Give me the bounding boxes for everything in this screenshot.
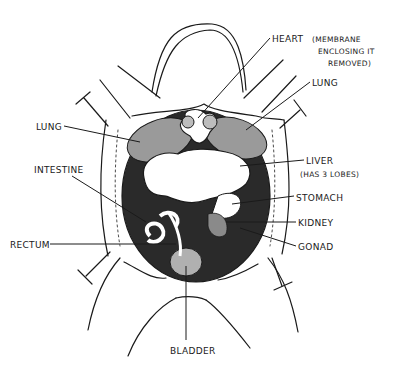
right-leg-outline bbox=[128, 298, 176, 356]
leader-lung-right bbox=[246, 82, 310, 130]
label-heart-note-1: (MEMBRANE bbox=[312, 35, 361, 45]
leader-lung-left bbox=[64, 126, 140, 142]
label-lung-right: LUNG bbox=[312, 78, 338, 88]
label-heart: HEART bbox=[272, 34, 303, 44]
label-lung-left: LUNG bbox=[36, 122, 62, 132]
jaw-outline bbox=[152, 24, 246, 92]
label-gonad: GONAD bbox=[298, 242, 333, 252]
label-heart-note-2: ENCLOSING IT bbox=[318, 47, 375, 57]
label-liver: LIVER bbox=[306, 156, 333, 166]
label-kidney: KIDNEY bbox=[298, 218, 333, 228]
label-stomach: STOMACH bbox=[296, 193, 343, 203]
pin-top-left-icon bbox=[76, 92, 108, 126]
label-rectum: RECTUM bbox=[10, 240, 50, 250]
skin-flap-right bbox=[282, 120, 289, 254]
label-heart-note-3: REMOVED) bbox=[328, 59, 371, 69]
label-intestine: INTESTINE bbox=[34, 165, 84, 175]
pin-bottom-right-icon bbox=[272, 258, 292, 290]
right-arm-outline bbox=[244, 60, 283, 98]
frog-dissection-diagram: HEART (MEMBRANE ENCLOSING IT REMOVED) LU… bbox=[0, 0, 394, 374]
label-liver-note: (HAS 3 LOBES) bbox=[300, 170, 359, 180]
skin-flap-left bbox=[101, 120, 108, 256]
label-bladder: BLADDER bbox=[170, 346, 215, 356]
pin-top-right-icon bbox=[280, 100, 306, 128]
